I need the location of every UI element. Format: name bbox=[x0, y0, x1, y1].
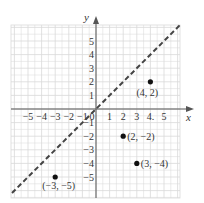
x-tick-label: −5 bbox=[23, 111, 34, 122]
data-points: (4, 2)(2, −2)(3, −4)(−3, −5) bbox=[42, 79, 168, 192]
x-tick-label: −4 bbox=[36, 111, 47, 122]
point-label: (3, −4) bbox=[141, 158, 168, 170]
x-tick-label: 3 bbox=[134, 111, 139, 122]
y-axis-arrow-icon bbox=[93, 16, 99, 24]
coordinate-plane: −5−4−3−2−101234.5−5−4−3−2−112345 (4, 2)(… bbox=[0, 0, 204, 203]
data-point bbox=[53, 174, 58, 179]
y-tick-label: 1 bbox=[89, 90, 94, 101]
data-point bbox=[148, 79, 153, 84]
y-tick-label: 4 bbox=[89, 49, 94, 60]
axes bbox=[11, 16, 194, 198]
point-label: (2, −2) bbox=[127, 131, 154, 143]
point-label: (−3, −5) bbox=[42, 180, 75, 192]
x-tick-label: 1 bbox=[107, 111, 112, 122]
point-label: (4, 2) bbox=[136, 87, 158, 99]
y-tick-label: 5 bbox=[89, 36, 94, 47]
y-tick-label: −4 bbox=[83, 158, 94, 169]
data-point bbox=[134, 161, 139, 166]
y-tick-label: −3 bbox=[83, 144, 94, 155]
x-tick-label: 5 bbox=[162, 111, 167, 122]
x-axis-label: x bbox=[185, 111, 191, 123]
x-tick-label: −3 bbox=[50, 111, 61, 122]
y-tick-label: 3 bbox=[89, 63, 94, 74]
x-tick-label: −2 bbox=[63, 111, 74, 122]
data-point bbox=[121, 134, 126, 139]
x-tick-label: 2 bbox=[121, 111, 126, 122]
y-tick-label: −5 bbox=[83, 172, 94, 183]
y-axis-label: y bbox=[83, 11, 89, 23]
x-tick-label: 4. bbox=[147, 111, 155, 122]
y-tick-label: −2 bbox=[83, 131, 94, 142]
y-tick-label: 2 bbox=[89, 76, 94, 87]
